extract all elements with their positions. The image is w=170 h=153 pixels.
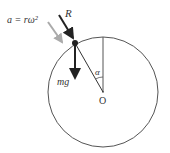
angle-arc	[96, 77, 104, 79]
center-label: O	[99, 95, 106, 106]
weight-label: mg	[57, 76, 69, 87]
particle-dot	[72, 40, 78, 46]
center-point	[102, 91, 104, 93]
reaction-label: R	[64, 7, 72, 19]
acceleration-arrow	[48, 22, 62, 42]
angle-label: α	[95, 67, 100, 77]
acceleration-label: a = rω²	[7, 14, 39, 25]
diagram-canvas: a = rω² R mg α O	[0, 0, 170, 153]
